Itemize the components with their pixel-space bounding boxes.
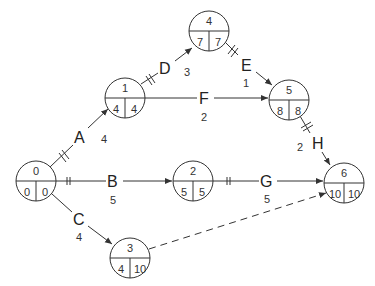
dummy-activity [149, 193, 326, 249]
network-diagram: A 4 B 5 C 4 D 3 E 1 F 2 [0, 0, 375, 286]
activity-label: F [199, 90, 209, 107]
node-es: 5 [181, 186, 187, 198]
node-2: 2 5 5 [173, 161, 213, 201]
activity-label: C [73, 211, 85, 228]
node-lf: 0 [42, 186, 48, 198]
duration-label: 2 [297, 141, 303, 153]
node-lf: 4 [131, 103, 137, 115]
node-number: 2 [190, 165, 196, 177]
node-1: 1 4 4 [105, 78, 145, 118]
node-6: 6 10 10 [324, 163, 364, 203]
node-number: 1 [122, 82, 128, 94]
activity-e: E 1 [225, 42, 272, 89]
node-0: 0 0 0 [16, 161, 56, 201]
node-es: 10 [329, 188, 341, 200]
activity-label: E [241, 57, 252, 74]
duration-label: 4 [101, 133, 107, 145]
node-es: 4 [118, 263, 124, 275]
node-number: 4 [206, 15, 212, 27]
node-3: 3 4 10 [110, 238, 150, 278]
duration-label: 5 [264, 193, 270, 205]
activity-label: H [312, 135, 324, 152]
duration-label: 1 [243, 77, 249, 89]
node-number: 0 [33, 165, 39, 177]
node-5: 5 8 8 [269, 80, 309, 120]
node-lf: 8 [295, 105, 301, 117]
activity-d: D 3 [141, 48, 192, 85]
node-es: 0 [24, 186, 30, 198]
node-lf: 5 [199, 186, 205, 198]
node-lf: 10 [134, 263, 146, 275]
duration-label: 3 [184, 66, 190, 78]
activity-label: D [159, 60, 171, 77]
node-es: 7 [197, 36, 203, 48]
node-es: 8 [277, 105, 283, 117]
node-number: 5 [286, 84, 292, 96]
activity-label: A [74, 129, 85, 146]
activity-label: B [107, 173, 118, 190]
node-4: 4 7 7 [189, 11, 229, 51]
activity-a: A 4 [50, 109, 108, 167]
duration-label: 2 [201, 111, 207, 123]
activity-c: C 4 [52, 194, 112, 244]
node-es: 4 [113, 103, 119, 115]
node-number: 3 [127, 242, 133, 254]
activity-g: G 5 [213, 173, 323, 205]
duration-label: 5 [110, 194, 116, 206]
node-lf: 10 [348, 188, 360, 200]
activity-h: H 2 [297, 116, 330, 165]
duration-label: 4 [76, 231, 82, 243]
node-lf: 7 [215, 36, 221, 48]
activity-label: G [260, 173, 272, 190]
node-number: 6 [341, 167, 347, 179]
activity-f: F 2 [145, 90, 268, 123]
activity-b: B 5 [56, 173, 172, 206]
